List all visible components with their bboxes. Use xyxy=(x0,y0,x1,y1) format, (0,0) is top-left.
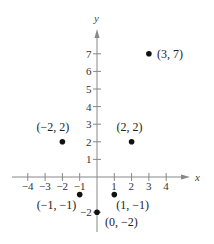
y-tick-label: 7 xyxy=(86,48,92,60)
data-points: (3, 7)(−2, 2)(2, 2)(−1, −1)(1, −1)(0, −2… xyxy=(36,47,183,229)
x-tick-label: −4 xyxy=(22,180,34,192)
point-label: (1, −1) xyxy=(116,198,149,212)
point-label: (2, 2) xyxy=(117,120,143,134)
x-tick-label: 1 xyxy=(111,180,117,192)
y-tick-label: 5 xyxy=(86,83,92,95)
y-tick-label: 3 xyxy=(86,118,92,130)
x-tick-label: 2 xyxy=(129,180,135,192)
x-axis-arrow-icon xyxy=(181,175,190,180)
y-tick-label: 2 xyxy=(86,136,92,148)
y-tick-label: 6 xyxy=(86,65,92,77)
data-point xyxy=(94,209,100,215)
y-axis-arrow-icon xyxy=(95,29,100,38)
point-label: (3, 7) xyxy=(157,47,183,61)
y-tick-label: 1 xyxy=(86,153,92,165)
point-label: (−1, −1) xyxy=(37,198,77,212)
y-tick-label: −2 xyxy=(80,206,92,218)
x-axis-label: x xyxy=(194,171,200,183)
data-point xyxy=(146,51,152,57)
data-point xyxy=(77,192,83,198)
data-point xyxy=(129,139,135,145)
y-axis-label: y xyxy=(93,12,99,24)
x-tick-label: −3 xyxy=(39,180,51,192)
x-tick-label: −1 xyxy=(74,180,86,192)
x-tick-label: 3 xyxy=(146,180,152,192)
data-point xyxy=(60,139,66,145)
data-point xyxy=(112,192,118,198)
x-tick-label: −2 xyxy=(56,180,68,192)
y-tick-label: 4 xyxy=(86,101,92,113)
point-label: (0, −2) xyxy=(105,215,138,229)
x-tick-label: 4 xyxy=(163,180,169,192)
point-label: (−2, 2) xyxy=(36,120,69,134)
scatter-plot: xy −4−3−2−11234−21234567 (3, 7)(−2, 2)(2… xyxy=(0,0,214,244)
